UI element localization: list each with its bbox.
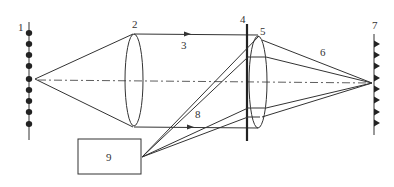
detector-marker (374, 120, 380, 127)
source-dot (26, 98, 32, 104)
label-9: 9 (106, 151, 112, 163)
source-dot (26, 121, 32, 127)
lens-2 (125, 34, 143, 126)
label-8: 8 (195, 108, 201, 120)
labels: 123456789 (18, 13, 378, 163)
label-1: 1 (18, 21, 24, 33)
arrow-icon (187, 125, 194, 130)
source-dot (26, 30, 32, 36)
detector-array (374, 34, 380, 135)
label-4: 4 (240, 13, 246, 25)
optical-axis (38, 80, 372, 83)
label-7: 7 (372, 19, 378, 31)
source-dots (26, 30, 32, 127)
detector-markers (374, 41, 380, 127)
source-dot (26, 52, 32, 58)
converging-beam (262, 40, 372, 117)
label-2: 2 (132, 18, 138, 30)
label-5: 5 (260, 25, 266, 37)
source-dot (26, 63, 32, 69)
detector-marker (374, 52, 380, 59)
detector-marker (374, 97, 380, 104)
source-array (26, 22, 32, 140)
label-3: 3 (181, 39, 187, 51)
arrow-icon (184, 32, 191, 37)
source-dot (26, 87, 32, 93)
detector-marker (374, 75, 380, 82)
detector-marker (374, 41, 380, 48)
source-dot (26, 76, 32, 82)
detector-marker (374, 109, 380, 116)
source-dot (26, 41, 32, 47)
optical-diagram: 123456789 (0, 0, 394, 187)
source-dot (26, 109, 32, 115)
detector-marker (374, 86, 380, 93)
detector-marker (374, 63, 380, 70)
label-6: 6 (320, 46, 326, 58)
